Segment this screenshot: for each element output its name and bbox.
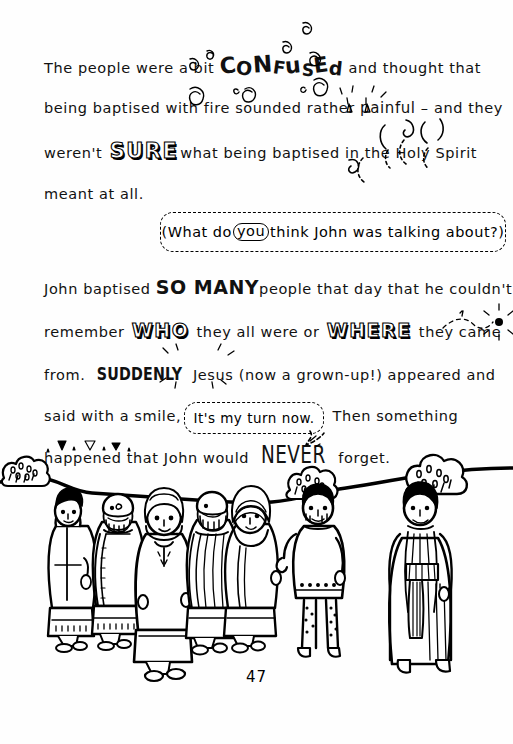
john-the-baptist — [277, 484, 345, 657]
book-page: The people were a bit CONFuSEd and thoug… — [0, 0, 513, 744]
text-line-3: weren't SUREwhat being baptised in the H… — [44, 130, 484, 173]
line8-before: said with a smile, — [44, 408, 181, 424]
crowd-figure-3 — [134, 488, 193, 681]
line1-after: and thought that — [343, 60, 481, 76]
emphasis-who: WHO — [130, 309, 192, 352]
emphasis-painful: painful — [360, 99, 416, 117]
line8-after: Then something — [332, 408, 458, 424]
text-line-1: The people were a bit CONFuSEd and thoug… — [44, 44, 484, 87]
emphasis-so-many: SO MANY — [156, 266, 259, 309]
line4-before: meant at all. — [44, 186, 144, 202]
line7-before: from. — [44, 367, 91, 383]
line3-before: weren't — [44, 145, 108, 161]
text-line-2: being baptised with fire sounded rather … — [44, 87, 484, 130]
emphasis-sure: SURE — [108, 130, 181, 173]
circled-word-you: you — [233, 223, 269, 241]
jesus — [389, 482, 451, 673]
line2-before: being baptised with fire sounded rather — [44, 100, 360, 116]
line6-after: they came — [414, 324, 502, 340]
emphasis-suddenly: SUDDENLY — [96, 352, 182, 395]
crowd-figure-5 — [224, 486, 281, 653]
question-text-before: (What do — [162, 224, 232, 240]
line1-before: The people were a bit — [44, 60, 220, 76]
bush-left — [2, 457, 50, 486]
page-number: 47 — [0, 668, 513, 686]
line5-before: John baptised — [44, 281, 156, 297]
emphasis-confused: CONFuSEd — [220, 45, 344, 90]
text-line-7: from. SUDDENLY Jesus (now a grown-up!) a… — [44, 352, 484, 395]
line6-before: remember — [44, 324, 130, 340]
line5-after: people that day that he couldn't — [259, 281, 512, 297]
reflection-question-box[interactable]: (What doyouthink John was talking about?… — [160, 212, 506, 252]
speech-bubble-text: It's my turn now. — [193, 410, 314, 426]
text-line-4: meant at all. — [44, 173, 484, 216]
line3-after: what being baptised in the Holy Spirit — [180, 145, 477, 161]
emphasis-where: WHERE — [325, 309, 414, 352]
question-text-after: think John was talking about?) — [270, 224, 504, 240]
line2-after: – and they — [416, 100, 503, 116]
crowd-figure-1 — [48, 488, 96, 652]
line6-middle: they all were or — [191, 324, 324, 340]
text-line-5: John baptised SO MANYpeople that day tha… — [44, 266, 484, 309]
illustration-scene — [0, 430, 513, 744]
text-line-6: remember WHO they all were or WHERE they… — [44, 309, 484, 352]
line7-after: Jesus (now a grown-up!) appeared and — [188, 367, 496, 383]
